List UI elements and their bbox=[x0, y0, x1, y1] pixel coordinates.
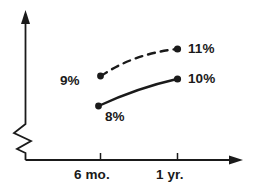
data-label-upper-1yr: 11% bbox=[188, 42, 215, 56]
series-lower-solid-line bbox=[99, 79, 178, 106]
chart-figure: 9% 11% 8% 10% 6 mo. 1 yr. bbox=[0, 0, 255, 196]
data-label-lower-1yr: 10% bbox=[188, 72, 215, 86]
series-lower-point-6mo bbox=[95, 103, 102, 110]
x-axis-label-1yr: 1 yr. bbox=[156, 168, 184, 182]
data-label-upper-6mo: 9% bbox=[60, 74, 80, 88]
x-axis-arrow-right-icon bbox=[229, 156, 243, 165]
series-upper-dashed-line bbox=[101, 49, 177, 76]
series-upper-point-6mo bbox=[97, 73, 104, 80]
series-upper-point-1yr bbox=[174, 45, 181, 52]
x-axis-label-6mo: 6 mo. bbox=[74, 168, 110, 182]
data-label-lower-6mo: 8% bbox=[105, 110, 125, 124]
series-lower-point-1yr bbox=[174, 75, 181, 82]
y-axis-arrow-up-icon bbox=[21, 10, 30, 24]
axis-break-zigzag-icon bbox=[14, 118, 31, 160]
chart-canvas bbox=[0, 0, 255, 196]
